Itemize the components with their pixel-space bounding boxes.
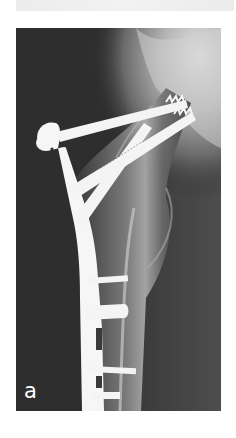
xray-image [16,28,221,411]
xray-figure: a [16,28,221,411]
panel-label: a [24,380,37,402]
top-strip [16,0,234,11]
